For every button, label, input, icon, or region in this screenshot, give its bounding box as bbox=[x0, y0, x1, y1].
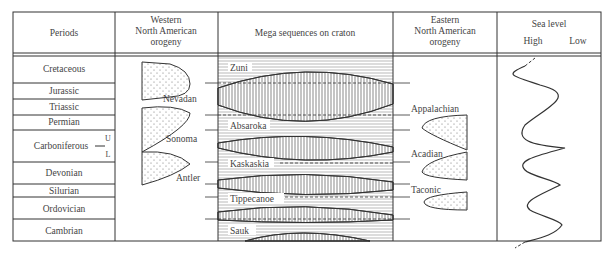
period-permian: Permian bbox=[48, 117, 80, 127]
period-cretaceous: Cretaceous bbox=[43, 64, 86, 74]
label-taconic: Taconic bbox=[411, 185, 441, 195]
label-absaroka: Absaroka bbox=[230, 121, 267, 131]
header-eastern-3: orogeny bbox=[429, 37, 460, 47]
label-appalachian: Appalachian bbox=[411, 104, 459, 114]
header-high: High bbox=[524, 36, 543, 46]
label-tippecanoe: Tippecanoe bbox=[230, 194, 274, 204]
period-jurassic: Jurassic bbox=[49, 86, 79, 96]
carboniferous-lower: L bbox=[106, 150, 111, 159]
period-ordovician: Ordovician bbox=[43, 204, 86, 214]
header-eastern-1: Eastern bbox=[431, 15, 460, 25]
period-triassic: Triassic bbox=[49, 102, 79, 112]
carboniferous-upper: U bbox=[105, 134, 111, 143]
label-nevadan: Nevadan bbox=[163, 94, 197, 104]
period-devonian: Devonian bbox=[46, 168, 83, 178]
period-cambrian: Cambrian bbox=[45, 226, 83, 236]
header-low: Low bbox=[569, 36, 587, 46]
label-antler: Antler bbox=[176, 173, 201, 183]
label-sonoma: Sonoma bbox=[166, 134, 198, 144]
header-western-2: North American bbox=[135, 26, 197, 36]
label-acadian: Acadian bbox=[411, 149, 443, 159]
period-carboniferous: Carboniferous bbox=[34, 141, 89, 151]
geologic-diagram: Periods Western North American orogeny M… bbox=[0, 0, 613, 256]
header-western-1: Western bbox=[151, 15, 182, 25]
header-eastern-2: North American bbox=[414, 26, 476, 36]
label-sauk: Sauk bbox=[230, 226, 249, 236]
header-western-3: orogeny bbox=[150, 37, 181, 47]
period-silurian: Silurian bbox=[49, 186, 79, 196]
label-kaskaskia: Kaskaskia bbox=[230, 159, 270, 169]
header-mega: Mega sequences on craton bbox=[255, 28, 356, 38]
header-periods: Periods bbox=[50, 28, 79, 38]
label-zuni: Zuni bbox=[230, 63, 248, 73]
header-sealevel: Sea level bbox=[532, 19, 567, 29]
